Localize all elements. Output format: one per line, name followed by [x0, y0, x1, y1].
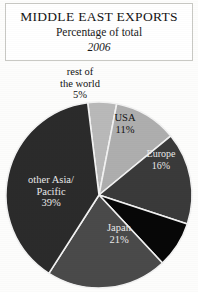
pie-chart-svg — [0, 62, 198, 292]
chart-year: 2006 — [6, 40, 192, 55]
page-title: MIDDLE EAST EXPORTS — [6, 9, 192, 25]
chart-subtitle: Percentage of total — [6, 25, 192, 40]
title-block: MIDDLE EAST EXPORTS Percentage of total … — [5, 3, 193, 61]
chart-page: MIDDLE EAST EXPORTS Percentage of total … — [0, 0, 198, 292]
pie-chart: rest of the world 5% USA 11% Europe 16% … — [0, 62, 198, 292]
